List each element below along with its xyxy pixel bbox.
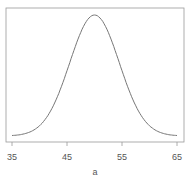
x-axis-ticks xyxy=(12,142,177,146)
x-axis-tick-labels: 35 45 55 65 xyxy=(7,152,182,162)
tick-label-35: 35 xyxy=(7,152,17,162)
tick-label-55: 55 xyxy=(117,152,127,162)
chart: 35 45 55 65 a xyxy=(0,0,187,179)
plot-box xyxy=(6,8,184,142)
tick-label-65: 65 xyxy=(172,152,182,162)
tick-label-45: 45 xyxy=(62,152,72,162)
x-axis-title: a xyxy=(92,167,97,177)
density-curve xyxy=(12,15,177,136)
